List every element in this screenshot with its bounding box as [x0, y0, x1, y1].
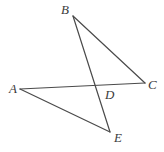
figure-background: [0, 0, 164, 152]
vertex-label-b: B: [61, 3, 69, 16]
vertex-label-a: A: [9, 82, 17, 95]
vertex-label-d: D: [105, 88, 114, 101]
vertex-label-e: E: [114, 131, 122, 144]
geometry-figure: A B C D E: [0, 0, 164, 152]
vertex-label-c: C: [148, 78, 157, 91]
figure-canvas: [0, 0, 164, 152]
